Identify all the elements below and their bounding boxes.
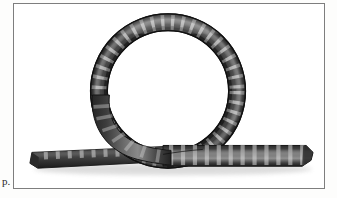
figure-frame [13,3,325,189]
band-flat-right-segment [161,144,316,167]
scanned-page: p. [0,0,337,198]
figure-illustration [14,4,324,188]
page-margin-note: p. [2,176,10,187]
